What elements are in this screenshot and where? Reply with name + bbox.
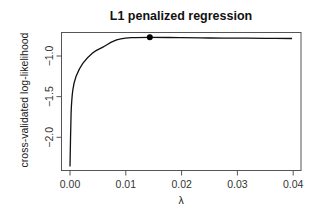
chart-title: L1 penalized regression (110, 9, 252, 23)
likelihood-curve (70, 37, 292, 166)
x-axis-label: λ (178, 194, 184, 206)
x-tick-label: 0.03 (227, 178, 248, 190)
y-tick-label: −1.5 (43, 86, 55, 107)
x-tick-label: 0.02 (171, 178, 192, 190)
y-tick-label: −1.0 (43, 45, 55, 66)
y-tick-label: −2.0 (43, 127, 55, 148)
y-axis: −1.0−1.5−2.0 (43, 45, 62, 147)
plot-frame (62, 33, 302, 171)
x-tick-label: 0.01 (116, 178, 137, 190)
chart: L1 penalized regression 0.000.010.020.03… (0, 0, 319, 218)
x-axis: 0.000.010.020.030.04 (60, 171, 304, 190)
y-axis-label: cross-validated log-likelihood (18, 32, 30, 167)
maximum-point-marker (147, 34, 153, 40)
x-tick-label: 0.00 (60, 178, 81, 190)
x-tick-label: 0.04 (283, 178, 304, 190)
